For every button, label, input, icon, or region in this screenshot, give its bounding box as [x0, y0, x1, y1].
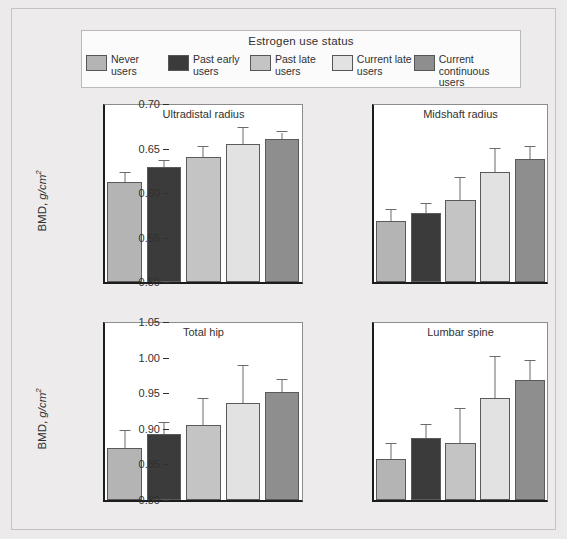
error-bar-cap: [420, 424, 431, 425]
plot-area: Total hip: [103, 322, 303, 502]
error-bar-cap: [237, 127, 248, 128]
bar[interactable]: [411, 438, 441, 500]
panel-title: Midshaft radius: [374, 108, 547, 120]
bar[interactable]: [376, 459, 406, 500]
y-axis-tick-mark: [163, 322, 169, 323]
y-axis-tick-mark: [163, 500, 169, 501]
figure-root: Estrogen use status Never usersPast earl…: [0, 0, 567, 539]
bar[interactable]: [480, 172, 510, 282]
y-axis-tick-mark: [163, 104, 169, 105]
error-bar: [282, 380, 283, 392]
y-axis-label: BMD, g/cm2: [34, 379, 48, 459]
legend-item-4[interactable]: Current continuous users: [414, 54, 518, 89]
y-axis-tick: 0.80: [139, 494, 169, 506]
bar-group: [445, 323, 475, 500]
bar[interactable]: [445, 443, 475, 500]
error-bar: [425, 204, 426, 213]
bar-group: [147, 323, 181, 500]
y-axis-label-text: BMD,: [36, 200, 48, 232]
legend-swatch-icon: [86, 55, 107, 71]
bar[interactable]: [107, 448, 141, 501]
legend-item-label: Current late users: [357, 54, 412, 77]
bar[interactable]: [265, 139, 299, 282]
y-axis-tick: 0.65: [139, 143, 169, 155]
y-axis-tick-label: 0.50: [139, 276, 160, 288]
error-bar: [391, 444, 392, 460]
bar[interactable]: [147, 167, 181, 282]
legend-item-1[interactable]: Past early users: [168, 54, 250, 89]
bar-group: [186, 105, 220, 282]
bar[interactable]: [480, 398, 510, 500]
y-axis-tick: 1.00: [139, 352, 169, 364]
bar[interactable]: [226, 403, 260, 500]
y-axis-tick: 0.95: [139, 387, 169, 399]
bar-series: [374, 105, 547, 282]
bar[interactable]: [265, 392, 299, 500]
error-bar: [460, 178, 461, 200]
bar[interactable]: [515, 159, 545, 282]
error-bar-cap: [386, 209, 397, 210]
bar[interactable]: [445, 200, 475, 282]
error-bar: [124, 173, 125, 182]
bar[interactable]: [186, 157, 220, 282]
y-axis-tick-label: 1.00: [139, 352, 160, 364]
y-axis-tick-mark: [163, 193, 169, 194]
error-bar: [124, 431, 125, 448]
y-axis-tick: 0.55: [139, 232, 169, 244]
legend-item-3[interactable]: Current late users: [332, 54, 414, 89]
legend-swatch-icon: [250, 55, 271, 71]
error-bar: [425, 425, 426, 439]
y-axis-tick-label: 0.90: [139, 423, 160, 435]
plot-area: Lumbar spine: [372, 322, 548, 502]
y-axis-label-unit: g/cm2: [36, 388, 48, 417]
bar-group: [376, 323, 406, 500]
bar-group: [445, 105, 475, 282]
error-bar-cap: [455, 408, 466, 409]
legend-item-label: Never users: [111, 54, 139, 77]
y-axis-label-exponent: 2: [34, 170, 43, 174]
panel-title: Lumbar spine: [374, 326, 547, 338]
y-axis-tick-label: 0.60: [139, 187, 160, 199]
legend-item-label: Past early users: [193, 54, 240, 77]
error-bar: [460, 409, 461, 443]
legend-item-0[interactable]: Never users: [86, 54, 168, 89]
bar-group: [265, 323, 299, 500]
error-bar-cap: [490, 356, 501, 357]
bar-group: [411, 105, 441, 282]
bar-group: [107, 105, 141, 282]
legend-swatch-icon: [414, 55, 435, 71]
y-axis-tick-mark: [163, 429, 169, 430]
error-bar: [495, 149, 496, 172]
error-bar-cap: [159, 160, 170, 161]
error-bar-cap: [237, 365, 248, 366]
bar[interactable]: [186, 425, 220, 500]
bar[interactable]: [411, 213, 441, 282]
legend-item-label: Past late users: [275, 54, 316, 77]
error-bar-cap: [277, 131, 288, 132]
error-bar-cap: [455, 177, 466, 178]
y-axis-tick-mark: [163, 238, 169, 239]
error-bar-cap: [119, 430, 130, 431]
error-bar-cap: [198, 146, 209, 147]
bar[interactable]: [107, 182, 141, 282]
y-axis-tick: 0.85: [139, 458, 169, 470]
legend-swatch-icon: [332, 55, 353, 71]
y-axis-label: BMD, g/cm2: [34, 161, 48, 241]
legend-title: Estrogen use status: [82, 35, 520, 47]
legend-items: Never usersPast early usersPast late use…: [86, 54, 518, 89]
y-axis-tick: 0.90: [139, 423, 169, 435]
error-bar: [495, 357, 496, 398]
plot-area: Ultradistal radius: [103, 104, 303, 284]
legend: Estrogen use status Never usersPast earl…: [81, 30, 521, 88]
bar-group: [186, 323, 220, 500]
y-axis-label-exponent: 2: [34, 388, 43, 392]
error-bar-cap: [119, 172, 130, 173]
bar-series: [105, 323, 302, 500]
bar[interactable]: [376, 221, 406, 282]
error-bar-cap: [524, 146, 535, 147]
bar[interactable]: [226, 144, 260, 282]
bar[interactable]: [515, 380, 545, 500]
y-axis-tick-mark: [163, 149, 169, 150]
bar-series: [105, 105, 302, 282]
legend-item-2[interactable]: Past late users: [250, 54, 332, 89]
